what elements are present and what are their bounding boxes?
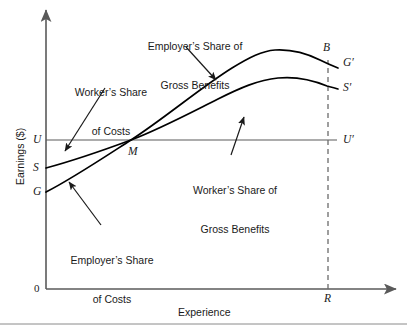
annotation-line-2: of Costs bbox=[47, 293, 177, 306]
x-axis-title: Experience bbox=[178, 306, 231, 319]
y-axis-title: Earnings ($) bbox=[14, 128, 26, 185]
annotation-worker-share-gross-benefits: Worker’s Share of Gross Benefits bbox=[163, 158, 307, 262]
annotation-line-1: Worker’s Share bbox=[51, 86, 171, 99]
point-label-S: S bbox=[33, 161, 39, 174]
point-label-B: B bbox=[323, 41, 330, 54]
annotation-line-1: Employer’s Share of bbox=[123, 40, 267, 53]
point-label-G: G bbox=[33, 185, 41, 198]
annotation-employer-share-costs: Employer’s Share of Costs bbox=[47, 228, 177, 328]
leader-employer-share-costs bbox=[69, 182, 101, 225]
annotation-line-1: Worker’s Share of bbox=[163, 184, 307, 197]
point-label-U-prime: U′ bbox=[343, 133, 354, 146]
annotation-line-2: of Costs bbox=[51, 125, 171, 138]
origin-label: 0 bbox=[34, 282, 40, 295]
annotation-line-1: Employer’s Share bbox=[47, 254, 177, 267]
point-label-U: U bbox=[33, 133, 41, 146]
point-label-S-prime: S′ bbox=[343, 81, 351, 94]
point-label-R: R bbox=[324, 292, 331, 305]
leader-worker-share-gross-benefits bbox=[231, 117, 244, 155]
figure-container: Earnings ($) Experience 0 U S G B G′ S′ … bbox=[0, 0, 407, 328]
annotation-worker-share-costs: Worker’s Share of Costs bbox=[51, 60, 171, 164]
annotation-line-2: Gross Benefits bbox=[163, 223, 307, 236]
point-label-G-prime: G′ bbox=[343, 56, 354, 69]
